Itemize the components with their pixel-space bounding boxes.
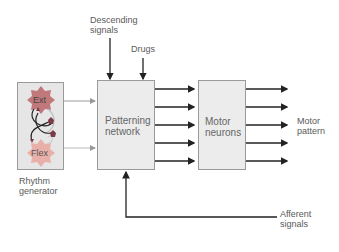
motor-neurons-label: Motor neurons xyxy=(205,116,241,138)
afferent-signals-label: Afferent signals xyxy=(280,209,311,229)
motor-pattern-line2: pattern xyxy=(297,126,325,136)
motor-output-arrows xyxy=(246,89,287,161)
afferent-arrow xyxy=(126,172,277,217)
flex-label: Flex xyxy=(31,148,48,159)
rhythm-label-line2: generator xyxy=(19,186,58,196)
descending-line1: Descending xyxy=(90,15,138,25)
afferent-line1: Afferent xyxy=(280,209,311,219)
descending-line2: signals xyxy=(90,25,138,35)
patterning-to-motor-arrows xyxy=(155,89,194,161)
motor-pattern-line1: Motor xyxy=(297,116,325,126)
drugs-label: Drugs xyxy=(131,44,155,54)
motor-pattern-label: Motor pattern xyxy=(297,116,325,136)
patterning-line2: network xyxy=(105,126,151,137)
motor-neurons-line1: Motor xyxy=(205,116,241,127)
patterning-network-label: Patterning network xyxy=(105,115,151,137)
rhythm-label-line1: Rhythm xyxy=(19,176,58,186)
ext-label: Ext xyxy=(33,95,46,106)
patterning-line1: Patterning xyxy=(105,115,151,126)
motor-neurons-box: Motor neurons xyxy=(198,80,246,170)
motor-neurons-line2: neurons xyxy=(205,127,241,138)
patterning-network-box: Patterning network xyxy=(97,80,155,170)
rhythm-generator-box: Ext Flex xyxy=(17,82,64,170)
afferent-line2: signals xyxy=(280,219,311,229)
rhythm-generator-label: Rhythm generator xyxy=(19,176,58,196)
descending-signals-label: Descending signals xyxy=(90,15,138,35)
